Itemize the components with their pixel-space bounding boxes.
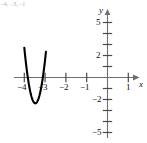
x-axis — [14, 75, 140, 81]
y-tick-label: 2 — [96, 50, 101, 60]
x-tick-label: −4 — [17, 82, 27, 92]
x-tick-label: −1 — [80, 82, 90, 92]
y-tick-label: −5 — [92, 127, 102, 137]
y-axis — [105, 9, 111, 138]
parabola-curve — [24, 48, 46, 104]
y-tick-label: −2 — [92, 94, 102, 104]
x-tick-label: −2 — [59, 82, 69, 92]
y-tick-label: 5 — [96, 17, 101, 27]
x-tick-label: 1 — [126, 82, 131, 92]
cartesian-plot — [0, 0, 147, 143]
y-axis-label: y — [99, 5, 103, 15]
y-axis-arrow — [105, 9, 111, 15]
x-tick-label: −3 — [38, 82, 48, 92]
x-axis-label: x — [139, 79, 143, 89]
graph-figure: -4, -3, -1 — [0, 0, 147, 143]
